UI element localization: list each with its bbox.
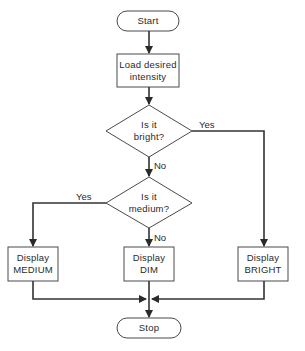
start-text: Start (137, 15, 158, 27)
connector-bright-join (152, 281, 264, 299)
display-medium-label: Display MEDIUM (8, 247, 58, 281)
connector-bright-yes (192, 131, 264, 246)
load-line-1: Load desired (119, 59, 176, 71)
connector-medium-join (33, 281, 146, 299)
bright-no-label: No (154, 160, 166, 171)
start-label: Start (117, 11, 179, 31)
is-medium-line-2: medium? (129, 203, 169, 215)
medium-yes-label: Yes (76, 191, 92, 202)
connector-medium-yes (33, 203, 106, 246)
stop-text: Stop (139, 322, 159, 334)
display-dim-line-2: DIM (140, 264, 158, 276)
bright-yes-label: Yes (199, 119, 215, 130)
medium-no-label: No (154, 232, 166, 243)
display-bright-line-2: BRIGHT (244, 264, 281, 276)
flowchart-canvas (0, 0, 305, 351)
load-intensity-label: Load desired intensity (117, 54, 179, 87)
is-medium-label: Is it medium? (119, 189, 179, 217)
load-line-2: intensity (130, 71, 167, 83)
display-medium-line-2: MEDIUM (13, 264, 53, 276)
is-bright-label: Is it bright? (119, 117, 179, 145)
display-bright-line-1: Display (247, 252, 280, 264)
display-dim-line-1: Display (133, 252, 166, 264)
stop-label: Stop (117, 318, 181, 338)
display-bright-label: Display BRIGHT (238, 247, 288, 281)
display-dim-label: Display DIM (124, 247, 174, 281)
display-medium-line-1: Display (17, 252, 50, 264)
is-bright-line-1: Is it (141, 119, 157, 131)
is-medium-line-1: Is it (141, 191, 157, 203)
is-bright-line-2: bright? (134, 131, 164, 143)
